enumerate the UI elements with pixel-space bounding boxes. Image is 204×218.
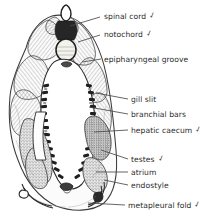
spinal-cord-circle xyxy=(61,5,71,21)
notochord-oval xyxy=(56,39,76,61)
label-endostyle: endostyle xyxy=(131,181,169,190)
label-testes: testes xyxy=(131,155,155,164)
label-branchial-bars: branchial bars xyxy=(131,110,186,119)
label-metapleural-fold: metapleural fold xyxy=(128,201,191,210)
epipharyngeal-groove-mark xyxy=(61,62,72,67)
anatomical-drawing xyxy=(0,0,204,218)
amphioxus-figure: spinal cord✓notochord✓epipharyngeal groo… xyxy=(0,0,204,218)
label-epipharyngeal-groove: epipharyngeal groove xyxy=(104,55,188,64)
label-gill-slit: gill slit xyxy=(131,95,156,104)
label-hepatic-caecum: hepatic caecum xyxy=(131,126,192,135)
label-notochord: notochord xyxy=(104,30,143,39)
label-spinal-cord: spinal cord xyxy=(104,12,146,21)
label-atrium: atrium xyxy=(131,168,156,177)
